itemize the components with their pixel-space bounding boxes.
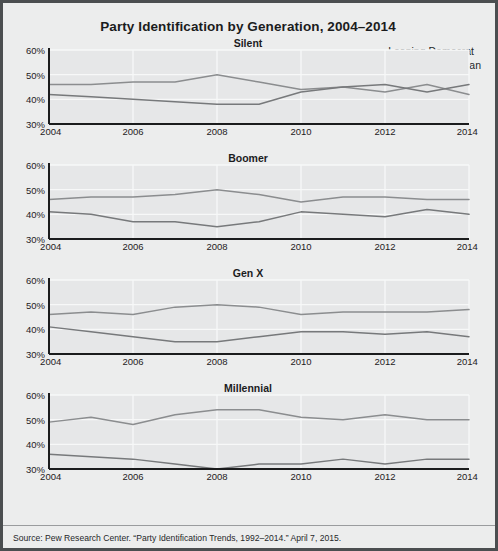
x-axis-labels: 200420062008201020122014 <box>49 469 469 485</box>
x-tick-label: 2010 <box>290 241 311 252</box>
x-tick-label: 2010 <box>290 356 311 367</box>
x-tick-label: 2012 <box>374 241 395 252</box>
y-tick-label: 60% <box>13 275 45 286</box>
x-tick-label: 2014 <box>457 356 478 367</box>
x-tick-label: 2014 <box>457 241 478 252</box>
x-tick-label: 2004 <box>40 241 61 252</box>
chart-panel-boomer: Boomer30%40%50%60%2004200620082010201220… <box>13 151 483 266</box>
x-tick-label: 2012 <box>374 126 395 137</box>
x-tick-label: 2006 <box>122 241 143 252</box>
x-tick-label: 2012 <box>374 471 395 482</box>
x-tick-label: 2010 <box>290 471 311 482</box>
x-tick-label: 2004 <box>40 356 61 367</box>
plot-area: 30%40%50%60% <box>49 280 469 354</box>
x-tick-label: 2006 <box>122 126 143 137</box>
x-tick-label: 2012 <box>374 356 395 367</box>
chart-panel-silent: Silent30%40%50%60%2004200620082010201220… <box>13 36 483 151</box>
x-tick-label: 2008 <box>206 471 227 482</box>
x-tick-label: 2006 <box>122 356 143 367</box>
x-tick-label: 2008 <box>206 126 227 137</box>
x-axis-labels: 200420062008201020122014 <box>49 124 469 140</box>
y-tick-label: 40% <box>13 439 45 450</box>
x-axis-labels: 200420062008201020122014 <box>49 354 469 370</box>
chart-panel-millennial: Millennial30%40%50%60%200420062008201020… <box>13 381 483 496</box>
page-title: Party Identification by Generation, 2004… <box>13 19 483 34</box>
plot-area: 30%40%50%60% <box>49 50 469 124</box>
y-tick-label: 40% <box>13 324 45 335</box>
x-tick-label: 2014 <box>457 126 478 137</box>
x-tick-label: 2014 <box>457 471 478 482</box>
y-tick-label: 50% <box>13 184 45 195</box>
y-tick-label: 50% <box>13 414 45 425</box>
panel-title: Millennial <box>13 381 483 395</box>
x-tick-label: 2004 <box>40 126 61 137</box>
x-tick-label: 2010 <box>290 126 311 137</box>
y-tick-label: 60% <box>13 390 45 401</box>
y-tick-label: 40% <box>13 209 45 220</box>
plot-area: 30%40%50%60% <box>49 395 469 469</box>
y-tick-label: 50% <box>13 69 45 80</box>
chart-figure: Party Identification by Generation, 2004… <box>0 0 498 551</box>
source-divider <box>3 525 495 526</box>
x-axis-labels: 200420062008201020122014 <box>49 239 469 255</box>
y-tick-label: 60% <box>13 45 45 56</box>
panel-title: Boomer <box>13 151 483 165</box>
chart-panel-gen-x: Gen X30%40%50%60%20042006200820102012201… <box>13 266 483 381</box>
y-tick-label: 60% <box>13 160 45 171</box>
y-tick-label: 50% <box>13 299 45 310</box>
chart-panels: Silent30%40%50%60%2004200620082010201220… <box>13 36 483 496</box>
x-tick-label: 2006 <box>122 471 143 482</box>
panel-title: Gen X <box>13 266 483 280</box>
panel-title: Silent <box>13 36 483 50</box>
plot-area: 30%40%50%60% <box>49 165 469 239</box>
y-tick-label: 40% <box>13 94 45 105</box>
x-tick-label: 2008 <box>206 356 227 367</box>
x-tick-label: 2004 <box>40 471 61 482</box>
source-note: Source: Pew Research Center. “Party Iden… <box>13 533 341 543</box>
x-tick-label: 2008 <box>206 241 227 252</box>
